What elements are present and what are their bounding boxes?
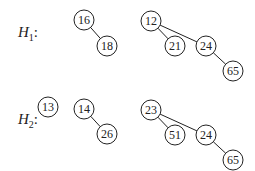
heap-node: 13	[38, 97, 58, 117]
tree-edge	[91, 116, 100, 126]
heap-node: 16	[74, 10, 94, 30]
tree-edge	[158, 117, 168, 128]
svg-text:14: 14	[78, 102, 90, 116]
heap-node: 23	[141, 100, 161, 120]
heap-node: 26	[97, 124, 117, 144]
svg-text:65: 65	[227, 64, 239, 78]
svg-text:18: 18	[101, 39, 113, 53]
svg-text:16: 16	[78, 13, 90, 27]
heap-node: 65	[223, 150, 243, 170]
svg-text:12: 12	[145, 14, 157, 28]
heap-node: 21	[165, 36, 185, 56]
heap-node: 24	[196, 36, 216, 56]
svg-text:23: 23	[145, 103, 157, 117]
tree-edge	[213, 142, 225, 153]
heap-node: 24	[196, 125, 216, 145]
tree-edge	[91, 27, 101, 38]
svg-text:51: 51	[169, 128, 181, 142]
heap-diagram: 16181221246513142623512465	[0, 0, 255, 171]
svg-text:24: 24	[200, 128, 212, 142]
heap-node: 12	[141, 11, 161, 31]
svg-text:13: 13	[42, 100, 54, 114]
svg-text:24: 24	[200, 39, 212, 53]
svg-text:26: 26	[101, 127, 113, 141]
heap-node: 51	[165, 125, 185, 145]
heap-node: 14	[74, 99, 94, 119]
tree-edge	[158, 28, 168, 39]
tree-edge	[213, 53, 225, 64]
heap-label-h1: H1:	[18, 24, 38, 43]
heap-node: 18	[97, 36, 117, 56]
heap-node: 65	[223, 61, 243, 81]
svg-text:21: 21	[169, 39, 181, 53]
svg-text:65: 65	[227, 153, 239, 167]
heap-label-h2: H2:	[18, 111, 38, 130]
